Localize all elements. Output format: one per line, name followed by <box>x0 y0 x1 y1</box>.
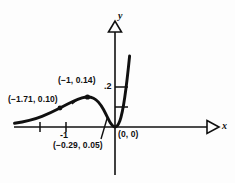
x-tick-label-minus1: -1 <box>60 131 68 140</box>
annotation-inflection-point: (−0.29, 0.05) <box>53 141 103 150</box>
annotation-origin-point: (0, 0) <box>118 130 138 139</box>
marker-peak-point <box>85 94 90 99</box>
y-axis-label: y <box>118 11 122 21</box>
annotation-left-point: (−1.71, 0.10) <box>8 95 58 104</box>
plot-canvas <box>0 0 235 183</box>
y-tick-label-0point2: .2 <box>104 82 112 91</box>
leader-line-inflection <box>101 117 108 139</box>
marker-left-point <box>58 106 63 111</box>
annotation-peak-point: (−1, 0.14) <box>58 76 96 85</box>
graph-figure: x y .2 -1 (−1.71, 0.10) (−1, 0.14) (−0.2… <box>0 0 235 183</box>
curve-path <box>15 56 130 127</box>
x-axis-arrowhead-icon <box>207 121 219 134</box>
y-axis-arrowhead-icon <box>109 21 122 32</box>
x-axis-label: x <box>222 121 227 131</box>
